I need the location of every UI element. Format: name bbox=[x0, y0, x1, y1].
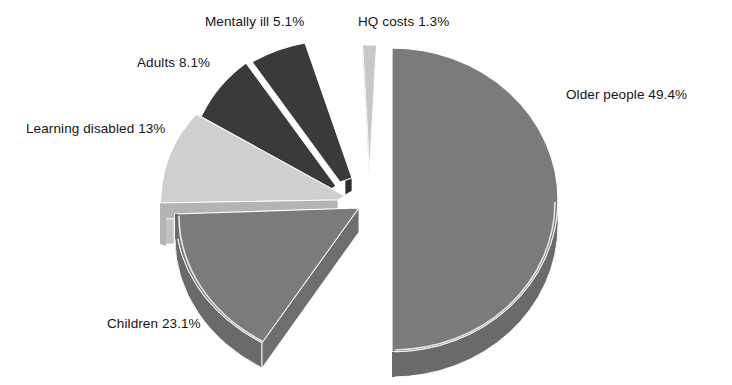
pie-slice-children bbox=[175, 208, 359, 368]
pie-label-hq-costs: HQ costs 1.3% bbox=[358, 14, 449, 29]
pie-chart: Older people 49.4% Children 23.1% Learni… bbox=[0, 0, 732, 385]
pie-slice-hq-costs bbox=[363, 45, 377, 182]
pie-label-adults: Adults 8.1% bbox=[137, 55, 210, 70]
pie-label-mentally-ill: Mentally ill 5.1% bbox=[205, 14, 304, 29]
pie-label-children: Children 23.1% bbox=[107, 316, 201, 331]
pie-label-older-people: Older people 49.4% bbox=[566, 87, 687, 102]
pie-slice-older-people bbox=[392, 48, 558, 377]
pie-label-learning-disabled: Learning disabled 13% bbox=[26, 121, 165, 136]
